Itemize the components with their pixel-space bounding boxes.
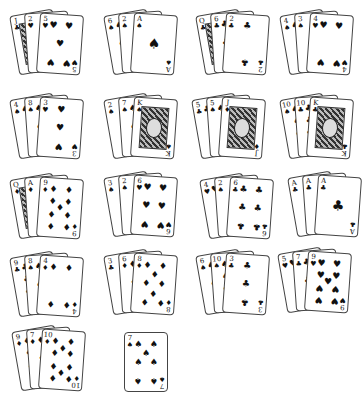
card-hand[interactable]: Q♦Q♦A♦A♦♦9♦9♦♦♦♦♦♦♦♦♦♦ [14,176,94,248]
suit-pip-icon: ♣ [238,203,247,213]
playing-card[interactable]: 5♥5♥♥♥♥♥♥ [36,13,84,76]
suit-pip-icon: ♦ [64,198,73,208]
suit-pip-icon: ♥ [57,105,66,115]
suit-pip-icon: ♠ [134,376,142,385]
face-card-art-icon [315,106,346,150]
playing-card[interactable]: A♣A♣♣ [314,175,362,238]
card-hand[interactable]: 4♠4♠♠♠♠♠8♠8♠♠♠♠♠♠♠♠♠3♥3♥♥♥♥ [14,96,94,168]
card-hand[interactable]: A♣A♣♣A♣A♣♣A♣A♣♣ [292,174,364,246]
playing-card[interactable]: K♠K♠ [130,97,178,160]
playing-card[interactable]: 4♥4♥♥♥♥♥ [306,13,354,76]
suit-pip-icon: ♥ [330,296,339,306]
suit-pip-icon: ♥ [47,57,56,67]
suit-pip-icon: ♦ [142,279,151,289]
suit-pip-icon: ♣ [243,261,252,271]
playing-card[interactable]: 6♥6♥♥♥♥♥♥♥ [130,175,178,238]
card-hand[interactable]: 2♠2♠♠♠7♠7♠♠♠♠♠♠♠♠K♠K♠ [108,96,188,168]
playing-card[interactable]: 3♥3♥♥♥♥ [36,97,84,160]
suit-pip-icon: ♦ [141,297,150,307]
suit-pip-icon: ♦ [67,337,76,347]
playing-card[interactable]: A♠A♠♠ [130,13,178,76]
suit-pip-icon: ♥ [142,201,151,211]
suit-pip-icon: ♥ [315,295,324,305]
suit-pip-icon: ♦ [47,209,56,219]
suit-pip-icon: ♦ [62,222,71,232]
suit-pip-icon: ♦ [159,261,168,271]
suit-pip-icon: ♦ [66,350,75,360]
playing-card[interactable]: 4♦4♦♦♦♦♦ [36,255,84,318]
suit-pip-icon: ♥ [49,20,58,30]
card-hand[interactable]: Q♣Q♣6♣6♣♣♣♣♣♣♣2♣2♣♣♣ [200,12,280,84]
suit-pip-icon: ♦ [63,210,72,220]
card-hand[interactable]: 3♣3♣♣♣♣6♦6♦♦♦♦♦♦♦8♦8♦♦♦♦♦♦♦♦♦ [108,252,188,324]
suit-pip-icon: ♥ [157,202,166,212]
suit-pip-icon: ♣ [243,21,252,31]
playing-card[interactable]: 10♦10♦♦♦♦♦♦♦♦♦♦♦ [38,329,86,392]
suit-pip-icon: ♦ [64,374,73,384]
playing-card[interactable]: 9♦9♦♦♦♦♦♦♦♦♦♦ [36,177,84,240]
playing-card[interactable]: K♣K♣ [306,97,354,160]
playing-card[interactable]: J♦J♦ [218,97,266,160]
suit-pip-icon: ♥ [333,259,342,269]
card-hand[interactable]: 9♦9♦♦♦♦♦♦♦♦♦♦7♦7♦♦♦♦♦♦♦♦10♦10♦♦♦♦♦♦♦♦♦♦♦ [16,328,96,398]
suit-pip-icon: ♥ [156,220,165,230]
suit-pip-icon: ♥ [62,58,71,68]
suit-pip-icon: ♠ [150,376,158,385]
card-hand[interactable]: 6♠6♠♠♠♠♠♠♠10♠10♠♠♠♠♠♠♠♠♠♠♠3♣3♣♣♣♣ [200,252,280,324]
suit-pip-icon: ♥ [56,123,65,133]
suit-pip-icon: ♣ [253,204,262,214]
suit-pip-icon: ♦ [149,288,158,298]
suit-pip-icon: ♣ [240,58,249,68]
suit-pip-icon: ♦ [49,262,58,272]
suit-pip-icon: ♣ [331,201,344,211]
suit-pip-icon: ♦ [47,221,56,231]
suit-pip-icon: ♥ [56,39,65,49]
suit-pip-icon: ♦ [156,298,165,308]
playing-card[interactable]: 9♥9♥♥♥♥♥♥♥♥♥♥ [304,251,352,314]
suit-pip-icon: ♥ [141,219,150,229]
suit-pip-icon: ♦ [157,280,166,290]
suit-pip-icon: ♣ [255,185,264,195]
suit-pip-icon: ♥ [54,142,63,152]
card-hand[interactable]: 4♠4♠♠♠♠♠3♠3♠♠♠♠4♥4♥♥♥♥♥ [284,12,364,84]
face-card-art-icon [139,106,170,150]
card-hand[interactable]: 3♠3♠♠♠♠2♠2♠♠♠6♥6♥♥♥♥♥♥♥ [108,174,188,246]
suit-pip-icon: ♥ [332,272,341,282]
suit-pip-icon: ♥ [331,284,340,294]
card-hand[interactable]: 10♠10♠♠♠♠♠♠♠♠♠♠♠10♣10♣♣♣♣♣♣♣♣♣♣♣K♣K♣ [284,96,364,168]
playing-card[interactable]: 8♦8♦♦♦♦♦♦♦♦♦ [130,253,178,316]
card-hand[interactable]: J♣J♣2♥2♥♥♥5♥5♥♥♥♥♥♥ [14,12,94,84]
suit-pip-icon: ♥ [159,183,168,193]
suit-pip-icon: ♠ [150,358,158,367]
suit-pip-icon: ♠ [147,39,160,49]
card-hand[interactable]: 5♥5♥♥♥♥♥♥7♣7♣♣♣♣♣♣♣♣9♥9♥♥♥♥♥♥♥♥♥♥ [282,250,362,322]
suit-pip-icon: ♦ [47,299,56,309]
card-index: 7♠ [158,375,166,389]
face-card-art-icon [227,106,258,150]
suit-pip-icon: ♥ [315,283,324,293]
suit-pip-icon: ♥ [65,21,74,31]
card-hand[interactable]: 4♥4♥♥♥♥♥2♠2♠♠♠6♣6♣♣♣♣♣♣♣ [204,176,284,248]
card-hand[interactable]: 6♠6♠♠♠♠♠♠♠2♠2♠♠♠A♠A♠♠ [108,12,188,84]
suit-pip-icon: ♣ [252,222,261,232]
suit-pip-icon: ♦ [65,263,74,273]
suit-pip-icon: ♥ [335,21,344,31]
suit-pip-icon: ♦ [49,184,58,194]
suit-pip-icon: ♣ [240,298,249,308]
suit-pip-icon: ♦ [49,373,58,383]
playing-card[interactable]: 3♣3♣♣♣♣ [222,253,270,316]
playing-card[interactable]: 6♣6♣♣♣♣♣♣♣ [226,177,274,240]
suit-pip-icon: ♠ [134,358,142,367]
suit-pip-icon: ♥ [319,20,328,30]
card-hand[interactable]: 5♣5♣♣♣♣♣♣5♠5♠♠♠♠♠♠J♦J♦ [196,96,276,168]
playing-card[interactable]: 7♠7♠♠♠♠♠♠♠♠ [124,332,168,392]
suit-pip-icon: ♣ [237,221,246,231]
card-hand[interactable]: 7♠7♠♠♠♠♠♠♠♠ [124,332,204,398]
suit-pip-icon: ♠ [150,339,158,348]
suit-pip-icon: ♣ [239,184,248,194]
suit-pip-icon: ♦ [50,349,59,359]
suit-pip-icon: ♥ [317,57,326,67]
playing-card[interactable]: 2♣2♣♣♣ [222,13,270,76]
card-hand[interactable]: 9♣9♣♣♣♣♣♣♣♣♣♣8♠8♠♠♠♠♠♠♠♠♠4♦4♦♦♦♦♦ [14,254,94,326]
suit-pip-icon: ♥ [332,58,341,68]
